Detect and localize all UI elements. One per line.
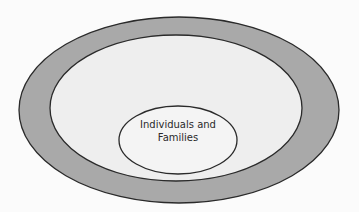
inner-ellipse-label: Individuals and Families [118,118,238,144]
label-line-2: Families [118,131,238,144]
nested-ellipse-diagram [0,0,359,212]
label-line-1: Individuals and [118,118,238,131]
